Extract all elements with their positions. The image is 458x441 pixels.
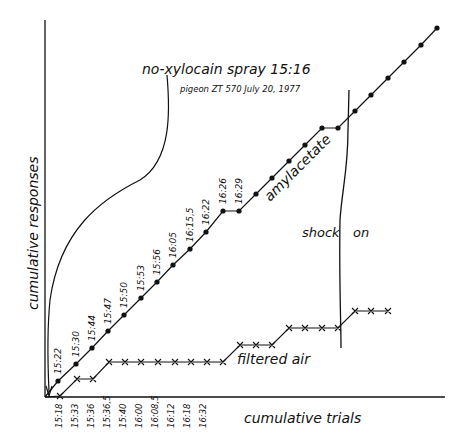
amylacetate-time-labels: 15:22 15:30 15:44 15:47 15:50 15:53 15:5… bbox=[53, 178, 244, 374]
svg-text:15:44: 15:44 bbox=[87, 315, 97, 341]
svg-text:16:22: 16:22 bbox=[201, 199, 211, 225]
pigeon-annotation: pigeon ZT 570 July 20, 1977 bbox=[179, 84, 301, 94]
amylacetate-markers bbox=[55, 25, 439, 383]
svg-text:16:15,5: 16:15,5 bbox=[185, 207, 195, 242]
svg-text:15:18: 15:18 bbox=[54, 403, 64, 428]
svg-text:15:50: 15:50 bbox=[119, 282, 129, 308]
svg-text:16:32: 16:32 bbox=[198, 404, 208, 429]
filtered-air-label: filtered air bbox=[237, 351, 311, 367]
svg-text:16:18: 16:18 bbox=[182, 403, 192, 428]
spray-annotation: no-xylocain spray 15:16 bbox=[142, 61, 311, 77]
svg-text:15:33: 15:33 bbox=[70, 404, 80, 429]
shock-marker-line bbox=[340, 90, 349, 348]
svg-text:15:22: 15:22 bbox=[53, 348, 63, 374]
svg-text:15:36: 15:36 bbox=[86, 403, 96, 428]
svg-text:16:12: 16:12 bbox=[166, 404, 176, 429]
svg-text:15:47: 15:47 bbox=[103, 298, 113, 324]
chart: cumulative responses cumulative trials n… bbox=[0, 0, 458, 441]
svg-text:15:53: 15:53 bbox=[136, 265, 146, 291]
on-label: on bbox=[353, 225, 369, 240]
shock-label: shock bbox=[302, 225, 340, 240]
svg-text:15:36,5: 15:36,5 bbox=[102, 395, 112, 428]
x-tick-labels: 15:18 15:33 15:36 15:36,5 15:40 16:00 16… bbox=[54, 395, 208, 428]
svg-text:16:08,5: 16:08,5 bbox=[150, 395, 160, 428]
x-axis-label: cumulative trials bbox=[244, 410, 361, 426]
spray-arrow-curve bbox=[48, 75, 169, 392]
svg-text:15:30: 15:30 bbox=[71, 331, 81, 357]
svg-text:16:29: 16:29 bbox=[234, 178, 244, 204]
y-axis-label: cumulative responses bbox=[25, 157, 41, 310]
svg-text:15:40: 15:40 bbox=[118, 404, 128, 429]
amylacetate-label: amylacetate bbox=[261, 131, 334, 204]
svg-text:16:05: 16:05 bbox=[168, 232, 178, 258]
svg-text:16:26: 16:26 bbox=[218, 178, 228, 204]
svg-text:16:00: 16:00 bbox=[134, 404, 144, 429]
svg-text:15:56: 15:56 bbox=[152, 249, 162, 275]
